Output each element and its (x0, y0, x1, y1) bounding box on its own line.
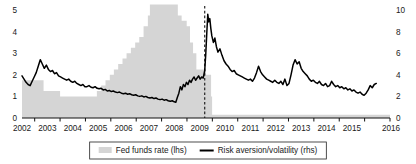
x-axis-tick-label: 2004 (64, 124, 83, 133)
plot-area (22, 5, 390, 118)
left-axis-tick-label: 5 (12, 6, 17, 15)
right-axis-tick-label: 2 (396, 92, 401, 101)
x-axis-tick-label: 2008 (165, 124, 184, 133)
legend-swatch-fed-funds (99, 147, 112, 153)
x-axis-tick-label: 2002 (13, 124, 32, 133)
right-axis-tick-label: 8 (396, 28, 401, 37)
x-axis-tick-label: 2010 (216, 124, 235, 133)
right-axis-tick-label: 4 (396, 71, 401, 80)
legend-label-fed-funds: Fed funds rate (lhs) (116, 146, 187, 155)
x-axis-ticks (35, 118, 390, 122)
x-axis-tick-label: 2013 (292, 124, 311, 133)
x-axis-tick-label: 2011 (242, 124, 260, 133)
right-axis-tick-labels: 0246810 (396, 6, 406, 123)
right-axis-tick-label: 10 (396, 6, 406, 15)
left-axis-tick-labels: 012345 (12, 6, 17, 123)
x-axis-tick-label: 2014 (317, 124, 336, 133)
x-axis-tick-label: 2005 (89, 124, 108, 133)
left-axis-tick-label: 2 (12, 71, 17, 80)
x-axis-tick-label: 2012 (267, 124, 286, 133)
right-y-axis: 0246810 (396, 6, 406, 123)
x-axis-tick-label: 2007 (140, 124, 159, 133)
x-axis-tick-label: 2006 (114, 124, 133, 133)
left-axis-tick-label: 3 (12, 49, 17, 58)
x-axis-tick-labels: 2002200320042005200620072008200920102011… (13, 124, 401, 133)
x-axis: 2002200320042005200620072008200920102011… (13, 118, 401, 133)
right-axis-tick-label: 0 (396, 114, 401, 123)
x-axis-tick-label: 2003 (38, 124, 57, 133)
chart-svg: 2002200320042005200620072008200920102011… (0, 0, 416, 164)
chart-legend: Fed funds rate (lhs) Risk aversion/volat… (90, 142, 327, 159)
x-axis-tick-label: 2016 (382, 124, 401, 133)
x-axis-tick-label: 2015 (343, 124, 362, 133)
x-axis-tick-label: 2009 (191, 124, 210, 133)
left-axis-tick-label: 4 (12, 28, 17, 37)
right-axis-tick-label: 6 (396, 49, 401, 58)
chart-container: 2002200320042005200620072008200920102011… (0, 0, 416, 164)
left-axis-tick-label: 1 (12, 92, 17, 101)
legend-label-risk-aversion: Risk aversion/volatility (rhs) (218, 146, 318, 155)
left-y-axis: 012345 (12, 6, 17, 123)
left-axis-tick-label: 0 (12, 114, 17, 123)
